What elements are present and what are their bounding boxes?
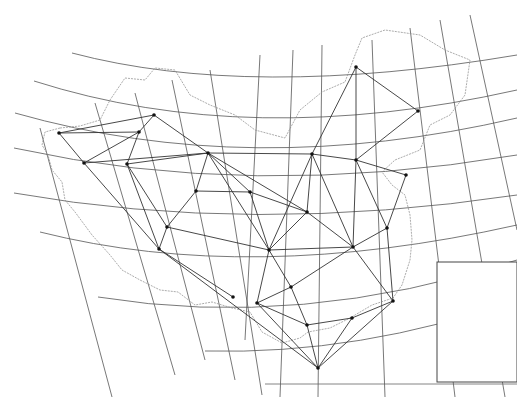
network-node — [354, 65, 358, 69]
network-edge — [318, 301, 393, 368]
network-edge — [208, 153, 269, 250]
network-node — [351, 245, 355, 249]
network-edge — [356, 160, 387, 228]
network-edge — [312, 154, 356, 160]
graticule-line — [14, 193, 517, 215]
network-node — [267, 248, 271, 252]
network-edge — [269, 250, 291, 287]
network-edge — [250, 192, 269, 250]
graticule-line — [135, 93, 205, 360]
network-node — [157, 247, 161, 251]
network-node — [385, 226, 389, 230]
network-node — [391, 299, 395, 303]
network-edge — [353, 228, 387, 247]
network-edge — [257, 250, 269, 303]
network-node — [152, 113, 156, 117]
network-edge — [257, 287, 291, 303]
network-edge — [257, 303, 318, 368]
network-edge — [154, 115, 208, 153]
graticule-line — [15, 113, 517, 148]
network-node — [206, 151, 210, 155]
network-edge — [387, 175, 406, 228]
map-canvas — [0, 0, 517, 397]
network-node — [125, 162, 129, 166]
triangulation-network-map — [0, 0, 517, 397]
network-edge — [352, 301, 393, 318]
network-node — [316, 366, 320, 370]
graticule-line — [210, 70, 262, 395]
network-edge — [196, 153, 208, 191]
network-edge — [59, 132, 139, 133]
network-node — [165, 225, 169, 229]
network-edge — [291, 247, 353, 287]
network-edge — [307, 318, 352, 325]
graticule-line — [72, 53, 517, 77]
graticule-line — [470, 15, 517, 230]
network-node — [231, 295, 235, 299]
network-edge — [159, 227, 167, 249]
network-node — [289, 285, 293, 289]
south-china-sea-inset — [437, 262, 517, 382]
graticule-line — [40, 128, 112, 397]
network-node — [350, 316, 354, 320]
graticule-line — [14, 148, 517, 176]
network-node — [416, 109, 420, 113]
network-edges — [59, 67, 418, 368]
network-edge — [208, 153, 307, 212]
network-node — [255, 301, 259, 305]
network-node — [404, 173, 408, 177]
network-edge — [269, 212, 307, 250]
network-edge — [312, 67, 356, 154]
network-edge — [356, 111, 418, 160]
network-node — [305, 323, 309, 327]
network-edge — [196, 191, 250, 192]
network-node — [194, 189, 198, 193]
network-edge — [269, 154, 312, 250]
network-node — [137, 130, 141, 134]
network-edge — [59, 133, 84, 163]
network-edge — [59, 115, 154, 133]
network-edge — [387, 228, 393, 301]
network-edge — [353, 247, 393, 301]
network-node — [57, 131, 61, 135]
network-edge — [167, 227, 269, 250]
graticule-line — [245, 55, 260, 340]
network-edge — [167, 191, 196, 227]
network-node — [305, 210, 309, 214]
network-edge — [159, 249, 318, 368]
network-edge — [318, 318, 352, 368]
graticule-line — [34, 81, 517, 118]
network-edge — [356, 67, 418, 111]
network-node — [82, 161, 86, 165]
network-edge — [312, 154, 353, 247]
network-edge — [307, 212, 353, 247]
network-edge — [353, 160, 356, 247]
network-node — [354, 158, 358, 162]
network-edge — [84, 163, 159, 249]
network-nodes — [57, 65, 420, 370]
network-edge — [269, 247, 353, 250]
network-node — [248, 190, 252, 194]
network-node — [310, 152, 314, 156]
